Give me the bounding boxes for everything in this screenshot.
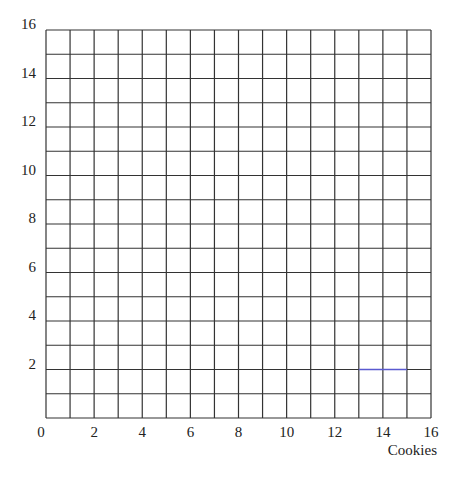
x-tick-label: 6 — [187, 424, 195, 440]
x-tick-label: 12 — [327, 424, 342, 440]
y-tick-label: 14 — [21, 65, 37, 81]
y-tick-label: 4 — [29, 307, 37, 323]
x-tick-label: 10 — [279, 424, 294, 440]
x-tick-label: 16 — [424, 424, 440, 440]
y-tick-label: 16 — [21, 16, 37, 32]
y-tick-label: 6 — [29, 259, 37, 275]
x-tick-label: 0 — [37, 424, 45, 440]
grid-lines — [46, 30, 431, 418]
x-tick-label: 8 — [235, 424, 243, 440]
y-tick-label: 8 — [29, 210, 37, 226]
x-tick-label: 2 — [90, 424, 98, 440]
x-tick-label: 4 — [139, 424, 147, 440]
y-tick-label: 12 — [21, 113, 36, 129]
cookies-grid-chart: 0246810121416 246810121416 Cookies — [0, 0, 462, 483]
x-axis-tick-labels: 0246810121416 — [37, 424, 439, 440]
x-axis-label: Cookies — [388, 442, 437, 458]
y-axis-tick-labels: 246810121416 — [21, 16, 37, 372]
y-tick-label: 10 — [21, 162, 36, 178]
x-tick-label: 14 — [375, 424, 391, 440]
y-tick-label: 2 — [29, 356, 37, 372]
